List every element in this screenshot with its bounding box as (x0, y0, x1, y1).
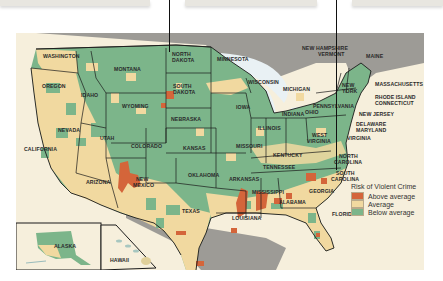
legend-item-below: Below average (351, 208, 431, 216)
callout-line-south-carolina (336, 0, 337, 170)
label-arizona: ARIZONA (86, 180, 110, 185)
legend-item-above: Above average (351, 192, 431, 200)
legend-item-average: Average (351, 200, 431, 208)
label-wyoming: WYOMING (122, 104, 149, 109)
label-colorado: COLORADO (131, 144, 162, 149)
swatch-average (351, 200, 364, 208)
label-maine: MAINE (366, 54, 383, 59)
label-south-dakota-2: DAKOTA (173, 90, 195, 95)
label-georgia: GEORGIA (309, 189, 334, 194)
legend-label: Average (368, 201, 394, 208)
label-north-dakota-2: DAKOTA (172, 58, 194, 63)
label-massachusetts: MASSACHUSETTS (375, 82, 423, 87)
map-legend: Risk of Violent Crime Above average Aver… (351, 183, 431, 216)
label-utah: UTAH (100, 136, 114, 141)
label-south-carolina-2: CAROLINA (331, 177, 359, 182)
label-new-jersey: NEW JERSEY (359, 112, 394, 117)
us-crime-map: WASHINGTON OREGON IDAHO MONTANA WYOMING … (16, 33, 424, 270)
label-hawaii: HAWAII (110, 258, 129, 263)
top-panel-edge-middle (185, 0, 317, 6)
label-vermont: VERMONT (318, 52, 345, 57)
swatch-above-average (351, 192, 364, 200)
label-california: CALIFORNIA (24, 147, 57, 152)
label-indiana: INDIANA (282, 112, 304, 117)
legend-label: Above average (368, 193, 415, 200)
label-connecticut: CONNECTICUT (375, 101, 414, 106)
label-missouri: MISSOURI (236, 144, 262, 149)
label-maryland: MARYLAND (356, 128, 386, 133)
label-north-carolina-2: CAROLINA (334, 160, 362, 165)
label-arkansas: ARKANSAS (229, 177, 259, 182)
label-minnesota: MINNESOTA (217, 57, 249, 62)
label-illinois: ILLINOIS (258, 126, 281, 131)
label-tennessee: TENNESSEE (263, 165, 295, 170)
map-graphic (16, 33, 424, 270)
label-virginia: VIRGINIA (347, 136, 371, 141)
label-nevada: NEVADA (58, 128, 80, 133)
label-nebraska: NEBRASKA (171, 117, 201, 122)
label-oregon: OREGON (42, 84, 66, 89)
label-pennsylvania: PENNSYLVANIA (313, 104, 354, 109)
label-ohio: OHIO (305, 110, 319, 115)
top-panel-edge-right (352, 0, 443, 6)
label-texas: TEXAS (182, 209, 200, 214)
swatch-below-average (351, 208, 364, 216)
label-new-mexico-2: MEXICO (133, 183, 154, 188)
label-iowa: IOWA (236, 105, 250, 110)
legend-label: Below average (368, 209, 414, 216)
label-washington: WASHINGTON (43, 54, 80, 59)
callout-line-north-dakota (169, 0, 170, 52)
top-panel-edge-left (0, 0, 150, 6)
label-montana: MONTANA (114, 67, 141, 72)
label-wisconsin: WISCONSIN (248, 80, 279, 85)
label-kentucky: KENTUCKY (273, 153, 303, 158)
label-idaho: IDAHO (81, 93, 98, 98)
label-new-york-2: YORK (342, 89, 357, 94)
label-mississippi: MISSISSIPPI (252, 190, 284, 195)
legend-title: Risk of Violent Crime (351, 183, 431, 190)
label-alabama: ALABAMA (279, 200, 306, 205)
label-louisiana: LOUISIANA (232, 216, 261, 221)
label-west-virginia-2: VIRGINIA (307, 139, 331, 144)
label-michigan: MICHIGAN (283, 87, 310, 92)
label-alaska: ALASKA (54, 244, 76, 249)
label-oklahoma: OKLAHOMA (188, 173, 219, 178)
label-kansas: KANSAS (183, 146, 206, 151)
